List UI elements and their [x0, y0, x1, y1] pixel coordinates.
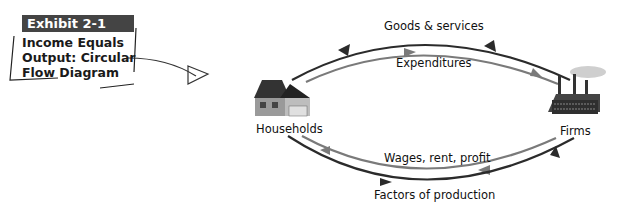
sketch-underline: [100, 84, 134, 88]
factors-arrowhead-icon: [380, 178, 392, 186]
goods-services-label: Goods & services: [384, 19, 484, 33]
pointer-arrowhead-icon: [188, 66, 208, 84]
exhibit-title-line: Output: Circular: [22, 50, 142, 65]
wages-label: Wages, rent, profit: [384, 151, 491, 165]
factors-label: Factors of production: [374, 188, 495, 202]
expenditures-arrowhead-icon: [530, 68, 542, 77]
house-icon: [254, 80, 310, 116]
goods-arrowhead-icon: [338, 44, 350, 56]
exhibit-title-line: Flow Diagram: [22, 65, 142, 80]
goods-arrowhead-icon: [484, 40, 496, 52]
exhibit-title-line: Income Equals: [22, 35, 142, 50]
exhibit-tab: Exhibit 2-1: [22, 15, 134, 32]
firms-label: Firms: [560, 124, 591, 138]
households-label: Households: [256, 122, 323, 136]
expenditures-label: Expenditures: [396, 56, 472, 70]
factors-arrowhead-icon: [550, 146, 560, 158]
exhibit-title: Income Equals Output: Circular Flow Diag…: [22, 35, 142, 80]
